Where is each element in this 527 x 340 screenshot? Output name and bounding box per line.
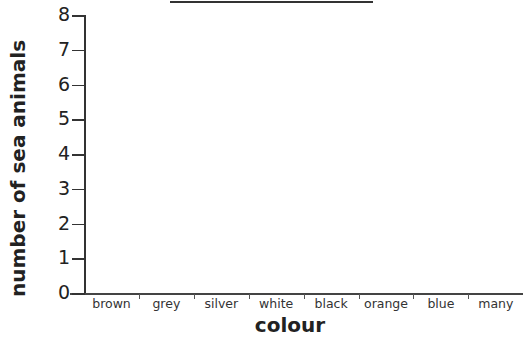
y-tick-label: 0 <box>52 282 70 302</box>
x-tick <box>413 294 414 299</box>
x-category-label: brown <box>84 296 139 311</box>
x-tick <box>304 294 305 299</box>
y-tick-label: 4 <box>52 143 70 163</box>
y-tick-label: 7 <box>52 39 70 59</box>
y-tick-label: 3 <box>52 178 70 198</box>
y-tick <box>72 119 85 121</box>
x-tick <box>249 294 250 299</box>
y-tick <box>72 50 85 52</box>
x-tick <box>194 294 195 299</box>
x-tick <box>139 294 140 299</box>
x-axis-title: colour <box>230 313 350 337</box>
y-tick <box>72 154 85 156</box>
y-tick <box>72 85 85 87</box>
y-tick-label: 5 <box>52 108 70 128</box>
x-category-label: orange <box>359 296 414 311</box>
y-tick <box>72 224 85 226</box>
y-tick-label: 8 <box>52 4 70 24</box>
y-tick-label: 1 <box>52 247 70 267</box>
y-tick <box>72 189 85 191</box>
x-category-label: grey <box>139 296 194 311</box>
x-category-label: silver <box>194 296 249 311</box>
y-tick-label: 6 <box>52 74 70 94</box>
x-category-label: blue <box>413 296 468 311</box>
y-tick-label: 2 <box>52 213 70 233</box>
x-category-label: white <box>249 296 304 311</box>
y-tick <box>72 293 85 295</box>
y-axis-title: number of sea animals <box>6 57 30 297</box>
y-tick <box>72 258 85 260</box>
x-tick <box>359 294 360 299</box>
title-underline <box>170 1 373 3</box>
x-tick <box>468 294 469 299</box>
y-tick <box>72 15 85 17</box>
x-category-label: many <box>468 296 523 311</box>
x-category-label: black <box>304 296 359 311</box>
